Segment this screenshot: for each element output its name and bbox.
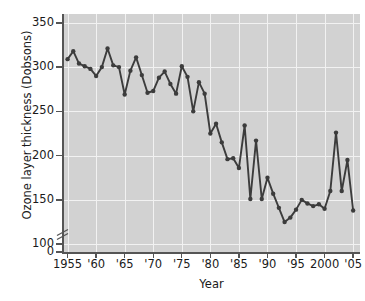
y-tick-label: 200 <box>32 150 54 162</box>
data-point <box>83 64 87 68</box>
data-point <box>162 69 166 73</box>
y-tick <box>56 66 63 67</box>
data-point <box>345 158 349 162</box>
data-point <box>305 201 309 205</box>
data-point <box>185 75 189 79</box>
y-tick <box>56 251 63 252</box>
data-point <box>208 131 212 135</box>
data-point <box>122 92 126 96</box>
data-point <box>65 57 69 61</box>
data-point <box>242 123 246 127</box>
data-point <box>191 109 195 113</box>
data-point <box>117 65 121 69</box>
data-point <box>311 204 315 208</box>
data-point <box>100 65 104 69</box>
data-point <box>88 67 92 71</box>
data-point <box>168 82 172 86</box>
data-point <box>288 215 292 219</box>
data-point <box>277 206 281 210</box>
y-tick-label: 350 <box>32 17 54 29</box>
data-point <box>77 61 81 65</box>
data-point <box>202 91 206 95</box>
data-point <box>294 207 298 211</box>
data-point <box>351 208 355 212</box>
data-point <box>282 220 286 224</box>
y-axis-line <box>62 14 64 253</box>
data-point <box>271 191 275 195</box>
data-point <box>151 89 155 93</box>
data-point <box>260 197 264 201</box>
data-point <box>322 207 326 211</box>
y-tick <box>56 111 63 112</box>
data-point <box>231 156 235 160</box>
data-point <box>300 198 304 202</box>
data-point <box>254 138 258 142</box>
axis-break-icon <box>56 222 70 242</box>
data-point <box>180 64 184 68</box>
data-point <box>94 74 98 78</box>
data-point <box>220 140 224 144</box>
y-tick <box>56 243 63 244</box>
data-point <box>111 63 115 67</box>
y-axis-title: Ozone layer thickness (Dobsons) <box>20 20 34 230</box>
data-point <box>340 189 344 193</box>
y-tick-label: 100 <box>32 238 54 250</box>
ozone-thickness-chart: 0100150200250300350 1955'60'65'70'75'80'… <box>0 0 365 301</box>
data-point <box>334 130 338 134</box>
y-tick-label: 150 <box>32 194 54 206</box>
x-tick-label: '05 <box>333 259 365 271</box>
ozone-line-series <box>63 14 360 253</box>
data-point <box>328 189 332 193</box>
y-tick <box>56 199 63 200</box>
data-point <box>237 166 241 170</box>
y-tick <box>56 155 63 156</box>
data-point <box>317 202 321 206</box>
data-point <box>265 176 269 180</box>
data-point <box>71 49 75 53</box>
data-point <box>145 91 149 95</box>
data-point <box>128 68 132 72</box>
data-point <box>174 91 178 95</box>
y-tick-label: 300 <box>32 61 54 73</box>
plot-area <box>63 14 360 253</box>
y-tick-label: 250 <box>32 105 54 117</box>
data-point <box>157 76 161 80</box>
data-point <box>105 46 109 50</box>
data-point <box>248 197 252 201</box>
series-markers <box>65 46 355 224</box>
data-point <box>225 157 229 161</box>
data-point <box>134 55 138 59</box>
y-tick <box>56 22 63 23</box>
data-point <box>214 122 218 126</box>
data-point <box>197 80 201 84</box>
data-point <box>140 73 144 77</box>
x-axis-title: Year <box>63 277 360 291</box>
